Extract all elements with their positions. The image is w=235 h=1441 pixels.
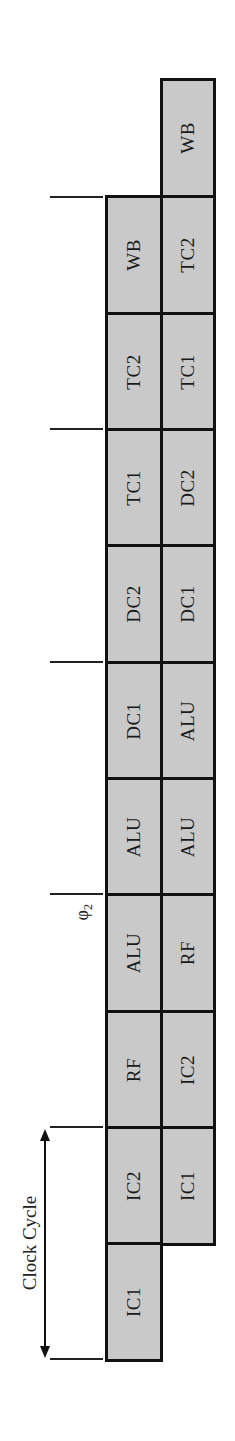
stage-cell-r1-6: DC1 xyxy=(105,661,163,780)
stage-cell-r1-4: ALU xyxy=(105,893,163,1013)
stage-label: RF xyxy=(123,1057,145,1081)
stage-cell-r2-5: ALU xyxy=(160,661,216,780)
clock-tick xyxy=(50,1126,103,1128)
stage-cell-r1-3: RF xyxy=(105,1010,163,1129)
phase-2-label: φ2 xyxy=(72,904,97,920)
stage-label: IC1 xyxy=(177,1171,199,1201)
stage-cell-r1-7: DC2 xyxy=(105,544,163,664)
stage-cell-r2-1: IC1 xyxy=(160,1126,216,1246)
stage-label: IC2 xyxy=(177,1055,199,1085)
stage-cell-r1-8: TC1 xyxy=(105,428,163,547)
stage-cell-r2-2: IC2 xyxy=(160,1010,216,1129)
stage-cell-r1-1: IC1 xyxy=(105,1242,163,1362)
stage-cell-r1-2: IC2 xyxy=(105,1126,163,1245)
stage-label: DC1 xyxy=(177,585,199,622)
stage-label: ALU xyxy=(123,816,145,857)
stage-cell-r1-5: ALU xyxy=(105,777,163,896)
stage-label: TC2 xyxy=(123,354,145,389)
stage-cell-r2-10: WB xyxy=(160,78,216,198)
clock-tick-phase2 xyxy=(50,893,103,895)
stage-label: WB xyxy=(177,122,199,154)
stage-cell-r2-3: RF xyxy=(160,893,216,1013)
clock-tick xyxy=(50,661,103,663)
stage-label: TC1 xyxy=(177,354,199,389)
stage-label: ALU xyxy=(177,700,199,741)
stage-label: DC2 xyxy=(123,585,145,622)
clock-tick xyxy=(50,1358,103,1360)
stage-label: DC2 xyxy=(177,469,199,506)
stage-cell-r2-8: TC1 xyxy=(160,312,216,431)
stage-label: TC2 xyxy=(177,237,199,272)
clock-tick xyxy=(50,196,103,198)
stage-label: ALU xyxy=(123,933,145,974)
stage-label: RF xyxy=(177,941,199,965)
clock-cycle-arrow xyxy=(44,1138,46,1352)
stage-label: ALU xyxy=(177,816,199,857)
stage-label: TC1 xyxy=(123,470,145,505)
stage-cell-r2-4: ALU xyxy=(160,777,216,896)
clock-tick xyxy=(50,428,103,430)
stage-cell-r1-10: WB xyxy=(105,195,163,315)
stage-label: IC2 xyxy=(123,1171,145,1201)
stage-label: IC1 xyxy=(123,1287,145,1317)
stage-cell-r2-7: DC2 xyxy=(160,428,216,547)
stage-cell-r2-6: DC1 xyxy=(160,544,216,664)
stage-label: DC1 xyxy=(123,702,145,739)
arrow-down-icon xyxy=(40,1346,50,1358)
stage-label: WB xyxy=(123,239,145,271)
stage-cell-r2-9: TC2 xyxy=(160,195,216,315)
pipeline-diagram: IC1 IC2 RF ALU ALU DC1 DC2 TC1 TC2 WB IC… xyxy=(0,0,235,1441)
clock-cycle-label: Clock Cycle xyxy=(19,1193,41,1293)
stage-cell-r1-9: TC2 xyxy=(105,312,163,431)
